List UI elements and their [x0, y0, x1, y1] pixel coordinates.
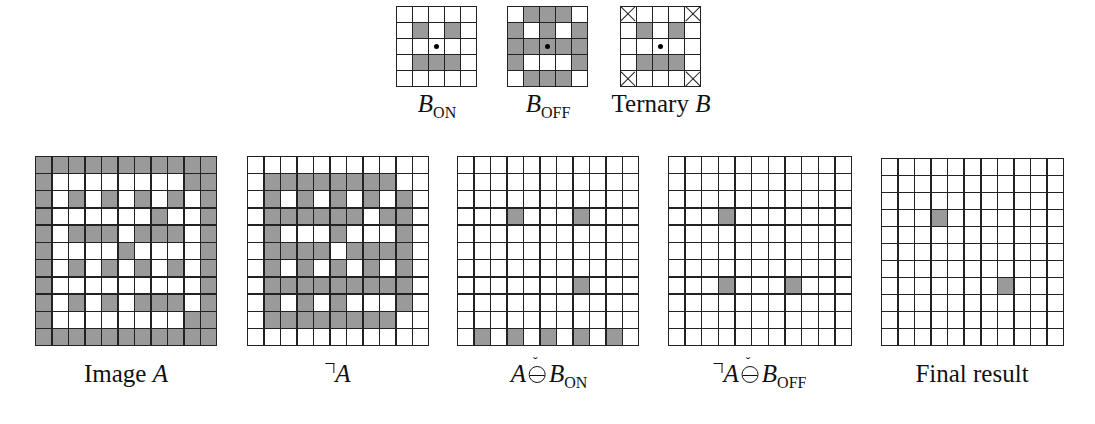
grid-cell — [882, 312, 897, 328]
grid-cell — [119, 295, 134, 311]
grid-cell — [314, 191, 329, 207]
grid-cell — [458, 295, 473, 311]
grid-cell — [475, 312, 490, 328]
grid-cell — [686, 260, 701, 276]
grid-cell — [185, 174, 200, 190]
grid-cell — [265, 226, 280, 242]
grid-cell — [281, 191, 296, 207]
grid-cell — [69, 295, 84, 311]
grid-cell — [53, 157, 68, 173]
grid-cell — [802, 329, 817, 345]
grid-cell — [458, 278, 473, 294]
grid-cell — [769, 209, 784, 225]
grid-cell — [201, 191, 216, 207]
grid-cell — [185, 157, 200, 173]
grid-cell — [736, 157, 751, 173]
grid-cell — [152, 209, 167, 225]
grid-cell — [314, 209, 329, 225]
hit-or-miss-operator-icon: ˇ — [742, 360, 759, 388]
grid-cell — [298, 295, 313, 311]
grid-cell — [413, 226, 428, 242]
grid-cell — [982, 261, 997, 277]
grid-cell — [540, 55, 555, 70]
grid-cell — [298, 174, 313, 190]
grid-cell — [769, 243, 784, 259]
grid-cell — [998, 227, 1013, 243]
hit-or-miss-operator-icon: ˇ — [529, 360, 546, 388]
grid-cell — [364, 295, 379, 311]
grid-cell — [932, 193, 947, 209]
grid-cell — [508, 55, 523, 70]
grid-cell — [719, 329, 734, 345]
grid-cell — [413, 55, 428, 70]
grid-cell — [508, 157, 523, 173]
b-off-kernel-grid — [507, 6, 588, 87]
grid-cell — [102, 278, 117, 294]
grid-cell — [524, 157, 539, 173]
grid-cell — [669, 157, 684, 173]
grid-cell — [819, 312, 834, 328]
grid-cell — [135, 295, 150, 311]
grid-cell — [669, 295, 684, 311]
grid-cell — [119, 157, 134, 173]
grid-cell — [36, 312, 51, 328]
grid-cell — [1015, 210, 1030, 226]
grid-cell — [802, 157, 817, 173]
grid-cell — [347, 174, 362, 190]
grid-cell — [932, 227, 947, 243]
grid-cell — [508, 71, 523, 86]
grid-cell — [998, 159, 1013, 175]
grid-cell — [669, 312, 684, 328]
grid-cell — [281, 329, 296, 345]
grid-cell — [298, 243, 313, 259]
grid-cell — [819, 329, 834, 345]
grid-cell — [397, 23, 412, 38]
grid-cell — [669, 226, 684, 242]
grid-cell — [1048, 227, 1063, 243]
grid-cell — [152, 226, 167, 242]
origin-dot-icon — [434, 44, 439, 49]
grid-cell — [948, 227, 963, 243]
grid-cell — [836, 260, 851, 276]
grid-cell — [265, 209, 280, 225]
grid-cell — [540, 71, 555, 86]
grid-cell — [836, 312, 851, 328]
grid-cell — [998, 295, 1013, 311]
grid-cell — [491, 226, 506, 242]
grid-cell — [1048, 329, 1063, 345]
grid-cell — [557, 243, 572, 259]
grid-cell — [882, 159, 897, 175]
grid-cell — [1015, 244, 1030, 260]
grid-cell — [1031, 210, 1046, 226]
grid-cell — [314, 329, 329, 345]
grid-cell — [819, 157, 834, 173]
grid-cell — [168, 191, 183, 207]
grid-cell — [882, 295, 897, 311]
grid-cell — [802, 226, 817, 242]
grid-cell — [331, 226, 346, 242]
grid-cell — [574, 157, 589, 173]
grid-cell — [248, 226, 263, 242]
grid-cell — [168, 312, 183, 328]
grid-cell — [380, 312, 395, 328]
grid-cell — [719, 243, 734, 259]
grid-cell — [119, 260, 134, 276]
grid-cell — [607, 278, 622, 294]
grid-cell — [769, 191, 784, 207]
grid-cell — [637, 23, 652, 38]
grid-cell — [508, 243, 523, 259]
grid-cell — [168, 226, 183, 242]
grid-cell — [86, 157, 101, 173]
not-a-label: A — [325, 360, 350, 388]
grid-cell — [786, 157, 801, 173]
grid-cell — [36, 295, 51, 311]
grid-cell — [702, 329, 717, 345]
grid-cell — [364, 174, 379, 190]
grid-cell — [265, 157, 280, 173]
grid-cell — [590, 191, 605, 207]
grid-cell — [119, 226, 134, 242]
grid-cell — [557, 174, 572, 190]
grid-cell — [998, 312, 1013, 328]
grid-cell — [965, 261, 980, 277]
grid-cell — [621, 39, 636, 54]
